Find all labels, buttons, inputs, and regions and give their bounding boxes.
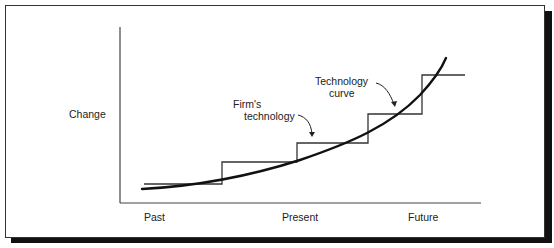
x-axis-label-present: Present [282,211,318,223]
technology-curve-arrow [376,83,394,104]
arrowhead-icon [391,101,397,107]
annotation-firm-technology-line1: Firm's [233,98,261,110]
x-axis-label-past: Past [144,211,165,223]
y-axis-label: Change [69,108,106,120]
annotation-firm-technology-line2: technology [244,110,295,122]
diagram-canvas [0,0,554,248]
annotation-technology-curve-line1: Technology [315,75,368,87]
firm-technology-arrow [298,115,312,134]
x-axis-label-future: Future [408,211,438,223]
technology-curve [142,58,446,189]
annotation-technology-curve-line2: curve [329,87,355,99]
firm-technology-staircase [144,75,465,184]
arrowhead-icon [309,132,315,137]
